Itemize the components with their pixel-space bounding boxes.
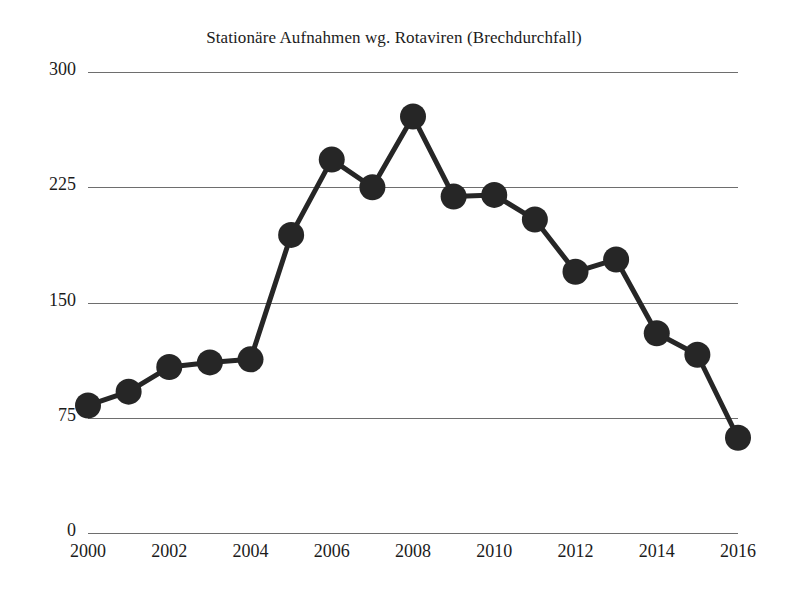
data-point-2005 [278,222,304,248]
plot-area [88,72,738,533]
x-tick-label: 2014 [617,541,697,562]
data-point-2006 [319,147,345,173]
data-point-2015 [684,342,710,368]
data-point-2000 [75,392,101,418]
data-point-2010 [481,182,507,208]
chart-figure: Stationäre Aufnahmen wg. Rotaviren (Brec… [0,0,788,599]
data-point-2009 [441,183,467,209]
y-axis-tick-labels: 300225150750 [0,72,76,533]
data-point-2014 [644,320,670,346]
x-tick-label: 2008 [373,541,453,562]
data-point-2003 [197,349,223,375]
x-tick-label: 2000 [48,541,128,562]
data-point-2007 [359,174,385,200]
data-point-2016 [725,425,751,451]
x-tick-label: 2002 [129,541,209,562]
x-axis-tick-labels: 200020022004200620082010201220142016 [88,541,738,571]
data-point-2001 [116,379,142,405]
data-point-2013 [603,246,629,272]
data-point-2008 [400,104,426,130]
y-tick-label: 300 [6,59,76,80]
data-series-line [88,72,738,533]
y-tick-label: 150 [6,290,76,311]
data-point-2012 [563,259,589,285]
x-tick-label: 2004 [211,541,291,562]
y-tick-label: 0 [6,520,76,541]
data-point-2011 [522,207,548,233]
y-tick-label: 75 [6,405,76,426]
x-tick-label: 2016 [698,541,778,562]
data-point-2002 [156,354,182,380]
x-tick-label: 2010 [454,541,534,562]
series-polyline [88,117,738,438]
x-tick-label: 2006 [292,541,372,562]
data-point-2004 [238,346,264,372]
gridline-0 [88,533,738,534]
chart-title: Stationäre Aufnahmen wg. Rotaviren (Brec… [0,28,788,48]
y-tick-label: 225 [6,174,76,195]
x-tick-label: 2012 [536,541,616,562]
